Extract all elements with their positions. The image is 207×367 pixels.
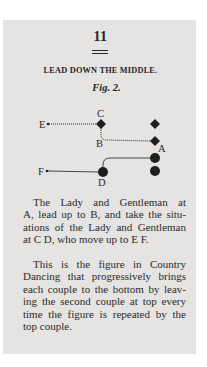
- paragraph-instructions: The Lady and Gentleman at A, lead up to …: [23, 196, 186, 246]
- text-line: at C D, who move up to E F.: [23, 233, 186, 245]
- diamond-icon-top: [150, 119, 160, 129]
- label-a: A: [158, 143, 166, 154]
- label-d: D: [98, 177, 106, 188]
- text-line: A, lead up to B, and take the situ-: [23, 208, 186, 220]
- text-line: ations of the Lady and Gentleman: [23, 221, 186, 233]
- label-c: C: [97, 108, 104, 119]
- text-line: This is the figure in Country: [23, 258, 186, 270]
- text-line: time the figure is repeated by the: [23, 308, 186, 320]
- diamond-icon-c: [96, 119, 106, 129]
- path-f-to-d: [48, 171, 99, 172]
- text-line: The Lady and Gentleman at: [23, 196, 186, 208]
- path-c-to-a: [101, 128, 151, 141]
- label-f: F: [38, 166, 44, 177]
- point-e: [47, 123, 50, 126]
- text-line: top couple.: [23, 320, 186, 332]
- paragraph-explanation: This is the figure in Country Dancing th…: [23, 258, 186, 332]
- text-line: Dancing that progressively brings: [23, 270, 186, 282]
- path-a-to-d: [103, 158, 151, 168]
- circle-icon-a: [150, 153, 160, 163]
- label-e: E: [39, 119, 45, 130]
- text-line: each couple to the bottom by leav-: [23, 283, 186, 295]
- circle-icon-d: [98, 167, 108, 177]
- label-b: B: [96, 138, 103, 149]
- point-f: [46, 170, 49, 173]
- circle-icon-bottom: [150, 166, 160, 176]
- text-line: ing the second couple at top every: [23, 295, 186, 307]
